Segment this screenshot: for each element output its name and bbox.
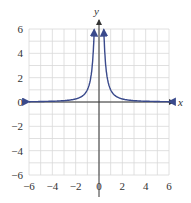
x-tick-label: −6 [23, 180, 35, 192]
y-tick-label: 4 [18, 47, 24, 59]
y-tick-label: 2 [18, 72, 24, 84]
y-tick-label: −4 [11, 145, 23, 157]
function-graph: xy −6−4−202466420−2−4−6 [0, 0, 191, 203]
x-tick-label: 0 [96, 180, 102, 192]
y-tick-label: 0 [18, 96, 24, 108]
y-tick-label: −6 [11, 169, 23, 181]
x-tick-label: 2 [120, 180, 126, 192]
y-axis-label: y [93, 5, 99, 17]
y-tick-label: −2 [11, 120, 23, 132]
tick-labels: −6−4−202466420−2−4−6 [11, 23, 172, 192]
x-tick-label: −4 [46, 180, 58, 192]
x-tick-label: 4 [143, 180, 149, 192]
x-tick-label: 6 [166, 180, 172, 192]
x-tick-label: −2 [70, 180, 82, 192]
y-tick-label: 6 [18, 23, 24, 35]
x-axis-label: x [177, 96, 183, 108]
